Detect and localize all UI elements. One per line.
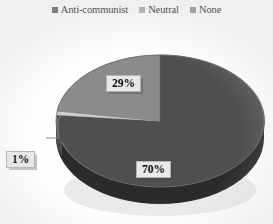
legend-swatch-neutral	[139, 7, 145, 13]
legend-swatch-none	[190, 7, 196, 13]
chart-legend: Anti-communist Neutral None	[0, 2, 273, 18]
pie-plot-area: 29% 70% 1%	[0, 18, 273, 224]
legend-label-none: None	[199, 5, 221, 16]
pie-svg	[0, 18, 273, 224]
legend-item-anti-communist[interactable]: Anti-communist	[52, 5, 128, 16]
pie-value-label-none: 1%	[6, 151, 35, 168]
legend-item-none[interactable]: None	[190, 5, 221, 16]
legend-label-anti-communist: Anti-communist	[61, 5, 128, 16]
pie-value-label-anti-communist: 70%	[136, 161, 171, 178]
pie-value-label-neutral: 29%	[106, 75, 141, 92]
legend-label-neutral: Neutral	[148, 5, 179, 16]
legend-item-neutral[interactable]: Neutral	[139, 5, 179, 16]
pie-chart-figure: Anti-communist Neutral None	[0, 0, 273, 224]
legend-swatch-anti-communist	[52, 7, 58, 13]
